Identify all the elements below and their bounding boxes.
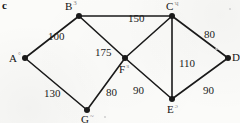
node-label-g: G~: [81, 112, 94, 123]
edge-weight-label: 90: [203, 84, 214, 96]
node-label-b: B3: [65, 0, 77, 12]
node-label-c: Cʮ: [166, 0, 179, 12]
graph-node-a[interactable]: [22, 55, 28, 61]
edge-weight-label: 100: [48, 30, 65, 42]
graph-edge: [25, 58, 87, 110]
node-annotation-mark: ~: [89, 112, 94, 120]
graph-node-c[interactable]: [169, 13, 175, 19]
edge-weight-label: 80: [204, 28, 215, 40]
edge-weight-label: 175: [95, 46, 112, 58]
edge-weight-label: 90: [133, 84, 144, 96]
node-annotation-mark: ɜ: [125, 62, 129, 70]
node-annotation-mark: 3: [72, 0, 77, 7]
node-label-text: A: [9, 52, 17, 64]
graph-node-b[interactable]: [76, 13, 82, 19]
node-label-f: Fɜ: [119, 62, 129, 75]
node-annotation-mark: ɔ: [174, 102, 178, 110]
graph-node-f[interactable]: [122, 55, 128, 61]
graph-node-d[interactable]: [225, 55, 231, 61]
edge-weight-label: 150: [128, 12, 145, 24]
node-annotation-mark: ʮ: [173, 0, 178, 7]
node-label-text: E: [167, 103, 174, 115]
edge-weight-label: 130: [44, 87, 61, 99]
figure-canvas: c 10015017580110130809090A°B3CʮDEɔFɜG~: [0, 0, 240, 123]
node-label-text: D: [232, 51, 240, 63]
node-annotation-mark: °: [17, 51, 21, 59]
node-label-d: D: [232, 51, 240, 63]
edge-weight-label: 80: [106, 86, 117, 98]
node-label-e: Eɔ: [167, 102, 178, 115]
node-label-text: G: [81, 113, 89, 123]
node-label-a: A°: [9, 51, 21, 64]
graph-edge: [172, 16, 228, 58]
edge-weight-label: 110: [179, 57, 195, 69]
